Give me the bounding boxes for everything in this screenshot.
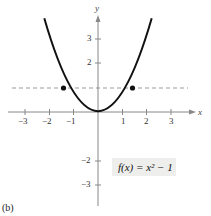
x-tick-label: 1 [121, 117, 126, 126]
y-axis-label: y [95, 3, 99, 13]
x-tick-label: −3 [18, 117, 28, 126]
y-tick-label: 3 [87, 34, 92, 43]
x-axis-arrow-icon [189, 110, 196, 115]
intersection-point-left [61, 85, 66, 90]
x-tick-label: 2 [144, 117, 149, 126]
y-axis-arrow-icon [96, 15, 101, 22]
y-tick-label: −2 [81, 156, 91, 165]
figure-caption: (b) [2, 202, 14, 213]
graph-canvas [0, 0, 211, 216]
x-tick-label: −2 [42, 117, 52, 126]
y-tick-label: 2 [87, 58, 92, 67]
function-label: f(x) = x² − 1 [118, 161, 173, 173]
y-tick-label: −3 [81, 180, 91, 189]
x-tick-label: −1 [66, 117, 76, 126]
x-tick-label: 3 [169, 117, 174, 126]
x-axis-label: x [198, 107, 202, 117]
intersection-point-right [130, 85, 135, 90]
